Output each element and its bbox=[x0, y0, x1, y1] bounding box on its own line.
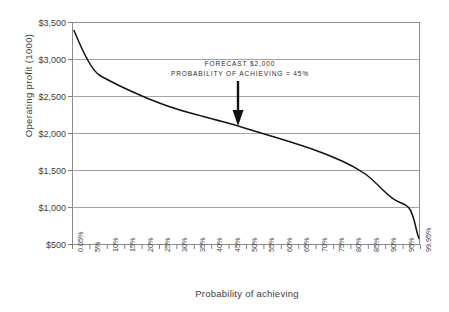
x-tick-label: 5% bbox=[93, 242, 102, 252]
x-tick-label: 0.05% bbox=[76, 232, 85, 252]
x-tick-label: 20% bbox=[146, 238, 155, 252]
x-tick-label: 95% bbox=[407, 238, 416, 252]
forecast-annotation: FORECAST $2,000 PROBABILITY OF ACHIEVING… bbox=[150, 59, 330, 79]
x-tick-label: 35% bbox=[198, 238, 207, 252]
x-tick-label: 60% bbox=[285, 238, 294, 252]
x-tick-label: 25% bbox=[163, 238, 172, 252]
x-tick-label: 55% bbox=[267, 238, 276, 252]
x-tick-label: 90% bbox=[389, 238, 398, 252]
x-tick-label: 30% bbox=[180, 238, 189, 252]
y-axis-ticks bbox=[68, 23, 72, 245]
chart-container: Operating profit (1000) $3,500 $3,000 $2… bbox=[0, 0, 449, 312]
x-tick-label: 80% bbox=[354, 238, 363, 252]
forecast-annotation-line2: PROBABILITY OF ACHIEVING = 45% bbox=[150, 69, 330, 79]
x-tick-label: 99.95% bbox=[424, 228, 433, 252]
x-axis-ticks bbox=[73, 245, 421, 250]
x-tick-label: 75% bbox=[337, 238, 346, 252]
forecast-arrow-icon bbox=[233, 81, 244, 126]
x-tick-label: 85% bbox=[372, 238, 381, 252]
x-tick-label: 40% bbox=[215, 238, 224, 252]
x-tick-label: 65% bbox=[302, 238, 311, 252]
x-axis-title: Probability of achieving bbox=[72, 288, 422, 299]
x-tick-label: 10% bbox=[111, 238, 120, 252]
forecast-annotation-line1: FORECAST $2,000 bbox=[150, 59, 330, 69]
x-tick-label: 50% bbox=[250, 238, 259, 252]
plot-area bbox=[0, 0, 449, 312]
gridlines bbox=[72, 60, 420, 208]
x-tick-label: 15% bbox=[128, 238, 137, 252]
x-tick-label: 45% bbox=[233, 238, 242, 252]
x-tick-label: 70% bbox=[320, 238, 329, 252]
